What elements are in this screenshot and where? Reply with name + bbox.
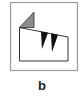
diagram-figure: b — [0, 0, 84, 97]
figure-label: b — [0, 79, 84, 93]
